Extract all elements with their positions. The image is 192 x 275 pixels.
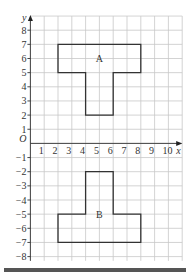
y-tick-label: −6 [16, 223, 27, 234]
x-tick-label: 6 [108, 145, 113, 156]
x-axis-label: x [175, 145, 181, 156]
y-tick-label: 4 [21, 81, 26, 92]
y-tick-label: −3 [16, 180, 27, 191]
tick-labels: AB1234567891012345678−1−2−3−4−5−6−7−8Oxy [16, 12, 181, 262]
axes [27, 15, 182, 261]
y-tick-label: 8 [21, 25, 26, 36]
x-tick-label: 10 [162, 145, 172, 156]
y-tick-label: −5 [16, 209, 27, 220]
x-tick-label: 5 [94, 145, 99, 156]
grid-lines [30, 16, 182, 261]
x-tick-label: 3 [66, 145, 71, 156]
bottom-divider [4, 268, 186, 272]
y-tick-label: −7 [16, 237, 27, 248]
x-tick-label: 2 [53, 145, 58, 156]
y-tick-label: −4 [16, 195, 27, 206]
shape-label-a: A [96, 53, 104, 64]
y-tick-label: 7 [21, 39, 26, 50]
coordinate-grid: AB1234567891012345678−1−2−3−4−5−6−7−8Oxy [0, 0, 192, 275]
y-axis-label: y [21, 12, 27, 23]
x-tick-label: 9 [149, 145, 154, 156]
y-tick-label: 5 [21, 67, 26, 78]
y-tick-label: −2 [16, 166, 27, 177]
origin-label: O [19, 133, 26, 144]
y-tick-label: −1 [16, 152, 27, 163]
shape-label-b: B [96, 209, 103, 220]
y-tick-label: 2 [21, 110, 26, 121]
x-tick-label: 4 [80, 145, 85, 156]
y-tick-label: 3 [21, 95, 26, 106]
x-tick-label: 7 [122, 145, 127, 156]
x-tick-label: 1 [39, 145, 44, 156]
y-tick-label: −8 [16, 251, 27, 262]
x-tick-label: 8 [135, 145, 140, 156]
y-tick-label: 6 [21, 53, 26, 64]
